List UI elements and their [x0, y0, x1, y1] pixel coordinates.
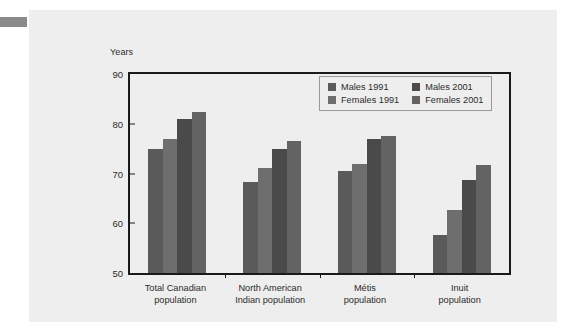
- chart-legend: Males 1991Males 2001Females 1991Females …: [319, 76, 492, 111]
- bar: [258, 168, 273, 273]
- bar: [433, 235, 448, 273]
- x-axis-category-label-line: population: [402, 294, 517, 306]
- legend-label: Females 2001: [425, 95, 483, 105]
- figure-panel: Years 5060708090 Total Canadianpopulatio…: [29, 10, 557, 322]
- legend-label: Males 2001: [425, 82, 473, 92]
- legend-swatch-icon: [412, 83, 420, 91]
- y-axis-tick-label: 50: [112, 268, 123, 279]
- y-axis-tick-mark: [130, 173, 135, 174]
- bar: [338, 171, 353, 273]
- bar: [148, 149, 163, 273]
- x-axis-tick-mark: [320, 273, 321, 278]
- bar: [177, 119, 192, 273]
- legend-swatch-icon: [412, 96, 420, 104]
- y-axis-tick-label: 80: [112, 118, 123, 129]
- bar: [243, 182, 258, 273]
- legend-swatch-icon: [328, 96, 336, 104]
- x-axis-tick-mark: [414, 273, 415, 278]
- legend-item: Males 1991: [328, 82, 399, 92]
- legend-item: Females 1991: [328, 95, 399, 105]
- y-axis-tick-mark: [130, 223, 135, 224]
- bar: [367, 139, 382, 273]
- bar: [192, 112, 207, 273]
- legend-label: Males 1991: [341, 82, 389, 92]
- x-axis-tick-mark: [225, 273, 226, 278]
- bar: [352, 164, 367, 273]
- bar: [163, 139, 178, 273]
- bar: [447, 210, 462, 273]
- corner-tab-marker: [0, 17, 27, 27]
- y-axis-tick-label: 90: [112, 69, 123, 80]
- y-axis-tick-label: 70: [112, 168, 123, 179]
- legend-item: Females 2001: [412, 95, 483, 105]
- bar: [462, 180, 477, 273]
- y-axis-tick-label: 60: [112, 218, 123, 229]
- y-axis-tick-mark: [130, 123, 135, 124]
- bar: [287, 141, 302, 273]
- bar: [476, 165, 491, 273]
- x-axis-category-label-line: Inuit: [402, 282, 517, 294]
- legend-item: Males 2001: [412, 82, 483, 92]
- legend-swatch-icon: [328, 83, 336, 91]
- y-axis-caption: Years: [110, 47, 133, 57]
- bar: [381, 136, 396, 273]
- page-canvas: Years 5060708090 Total Canadianpopulatio…: [0, 0, 574, 335]
- bar: [272, 149, 287, 273]
- legend-label: Females 1991: [341, 95, 399, 105]
- x-axis-category-label: Inuitpopulation: [402, 282, 517, 306]
